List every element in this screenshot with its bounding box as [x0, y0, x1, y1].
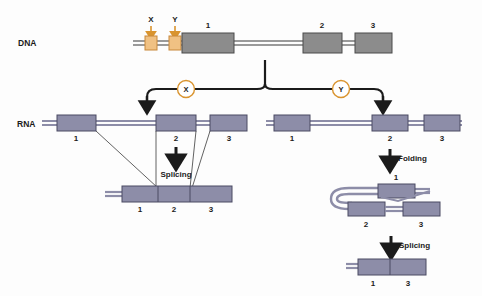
- left-product-seg-1-label: 1: [138, 205, 143, 214]
- left-product-seg-2-label: 2: [172, 205, 177, 214]
- mutation-x-box: [145, 36, 157, 50]
- right-rna-exon-1-label: 1: [290, 134, 295, 143]
- dna-exon-3-label: 3: [371, 21, 376, 30]
- dna-row: DNA X Y 1 2 3: [18, 15, 392, 53]
- dna-exon-1: 1: [182, 21, 234, 53]
- right-rna-exon-2: 2: [372, 115, 408, 143]
- folding-label: Folding: [398, 154, 427, 163]
- left-rna-exon-1-label: 1: [74, 134, 79, 143]
- folding-step: Folding: [390, 149, 427, 165]
- branch-left-arm: [147, 84, 265, 105]
- mutation-y-box: [169, 36, 181, 50]
- left-splicing-step: Splicing: [160, 147, 191, 179]
- dna-exon-2-label: 2: [320, 21, 325, 30]
- left-rna-exon-3: 3: [210, 115, 247, 143]
- folded-rna-structure: 1 2 3: [331, 173, 440, 229]
- right-rna-exon-3-label: 3: [440, 134, 445, 143]
- folded-exon-3: 3: [403, 202, 440, 229]
- dna-exon-1-label: 1: [206, 21, 211, 30]
- right-spliced-product: 1 3: [346, 259, 426, 288]
- mutation-marker-y: Y: [169, 15, 181, 50]
- folded-exon-1-label: 1: [394, 173, 399, 182]
- branch-label-x: X: [178, 81, 195, 98]
- mutation-x-label: X: [148, 15, 154, 24]
- right-rna-exon-3: 3: [424, 115, 460, 143]
- left-rna-exon-1: 1: [57, 115, 96, 143]
- left-rna-exon-2-label: 2: [174, 134, 179, 143]
- right-splicing-label: Splicing: [399, 241, 430, 250]
- right-rna-exon-2-label: 2: [388, 134, 393, 143]
- right-splicing-step: Splicing: [391, 236, 430, 252]
- left-spliced-product: 1 2 3: [105, 186, 232, 214]
- right-rna-transcript: 1 2 3: [266, 115, 462, 143]
- branch-y-text: Y: [338, 85, 343, 94]
- right-product-seg-1-label: 1: [371, 279, 376, 288]
- folded-exon-2-label: 2: [364, 220, 369, 229]
- folded-exon-2: 2: [348, 202, 385, 229]
- branch-x-text: X: [183, 85, 188, 94]
- right-product-seg-3-label: 3: [406, 279, 411, 288]
- branch-right-arm: [265, 84, 383, 105]
- left-rna-exon-2: 2: [156, 115, 196, 143]
- left-product-seg-3-label: 3: [209, 205, 214, 214]
- dna-exon-2: 2: [303, 21, 342, 53]
- branch-label-y: Y: [333, 81, 350, 98]
- left-splicing-label: Splicing: [160, 170, 191, 179]
- figure-canvas: DNA X Y 1 2 3: [0, 0, 482, 296]
- rna-label: RNA: [17, 119, 35, 129]
- splicing-diagram: DNA X Y 1 2 3: [0, 0, 482, 296]
- folded-exon-3-label: 3: [419, 220, 424, 229]
- left-splice-guides: [96, 131, 210, 188]
- left-rna-transcript: RNA 1 2 3: [17, 115, 247, 143]
- dna-exon-3: 3: [355, 21, 392, 53]
- left-rna-exon-3-label: 3: [227, 134, 232, 143]
- right-rna-exon-1: 1: [274, 115, 310, 143]
- folded-exon-1: 1: [378, 173, 415, 198]
- dna-label: DNA: [18, 38, 36, 48]
- mutation-y-label: Y: [172, 15, 178, 24]
- mutation-marker-x: X: [145, 15, 157, 50]
